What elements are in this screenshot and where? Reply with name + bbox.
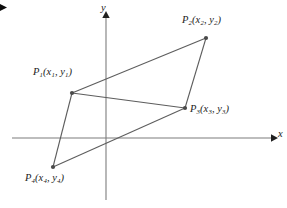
edge-p2-p3 [185, 38, 206, 108]
point-label-p1: P1(x1, y1) [33, 67, 72, 78]
edge-p1-p2 [72, 38, 206, 93]
x-axis-arrowhead [271, 134, 278, 142]
x-axis-label: x [278, 129, 283, 140]
edge-p1-p3-diagonal [72, 93, 185, 108]
y-axis-label: y [101, 3, 106, 14]
geometry-figure: P1(x1, y1) P2(x2, y2) P3(x3, y3) P4(x4, … [0, 0, 287, 208]
corner-arrow-artifact [0, 4, 9, 11]
vertex-dot-p1 [70, 91, 74, 95]
point-label-p3: P3(x3, y3) [190, 104, 229, 115]
vertex-dot-p2 [204, 36, 208, 40]
edge-p4-p1 [53, 93, 72, 167]
vertex-dot-p3 [183, 106, 187, 110]
point-label-p2: P2(x2, y2) [182, 15, 221, 26]
point-label-p4: P4(x4, y4) [25, 173, 64, 184]
vertex-dot-p4 [51, 165, 55, 169]
